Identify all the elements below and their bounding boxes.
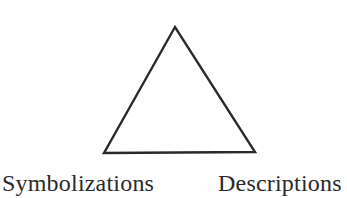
- triangle-diagram: [0, 0, 347, 198]
- label-symbolizations: Symbolizations: [2, 171, 154, 195]
- triangle-shape: [104, 27, 255, 153]
- label-descriptions: Descriptions: [218, 171, 342, 195]
